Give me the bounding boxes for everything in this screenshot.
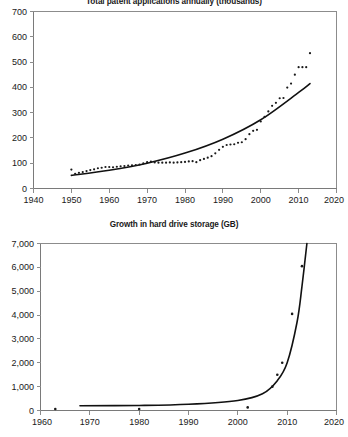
- y-tick-label: 300: [12, 108, 27, 118]
- x-axis-ticks: [41, 411, 337, 415]
- x-tick-label: 1990: [178, 417, 198, 427]
- data-point: [135, 164, 137, 166]
- data-point: [176, 161, 178, 163]
- data-point: [245, 138, 247, 140]
- data-point: [298, 66, 300, 68]
- data-point: [309, 52, 311, 54]
- data-point: [161, 162, 163, 164]
- y-tick-label: 100: [12, 158, 27, 168]
- x-tick-label: 2000: [251, 195, 271, 205]
- y-axis-ticks: [30, 12, 34, 189]
- y-tick-label: 6,000: [11, 262, 34, 272]
- y-tick-label: 1,000: [11, 382, 34, 392]
- data-point: [146, 161, 148, 163]
- x-tick-label: 1990: [213, 195, 233, 205]
- y-tick-label: 2,000: [11, 358, 34, 368]
- data-point: [70, 168, 72, 170]
- patent-applications-plot: 0 100 200 300 400 500 600 700: [0, 0, 348, 215]
- y-axis-labels: 0 100 200 300 400 500 600 700: [12, 7, 27, 194]
- y-tick-label: 3,000: [11, 334, 34, 344]
- data-point: [112, 166, 114, 168]
- data-point: [281, 361, 284, 364]
- data-point: [184, 161, 186, 163]
- data-point: [142, 162, 144, 164]
- data-point: [188, 160, 190, 162]
- x-tick-label: 1940: [23, 195, 43, 205]
- data-point: [218, 149, 220, 151]
- data-point: [275, 102, 277, 104]
- data-point: [97, 167, 99, 169]
- y-tick-label: 600: [12, 32, 27, 42]
- data-point: [131, 164, 133, 166]
- chart-patent-applications: Total patent applications annually (thou…: [0, 0, 348, 215]
- data-point: [54, 408, 57, 411]
- data-point: [267, 110, 269, 112]
- data-point: [241, 141, 243, 143]
- data-point: [305, 66, 307, 68]
- y-tick-label: 0: [29, 406, 34, 416]
- data-point: [301, 66, 303, 68]
- data-point: [157, 162, 159, 164]
- y-axis-labels: 0 1,000 2,000 3,000 4,000 5,000 6,000 7,…: [11, 239, 34, 416]
- scatter-points: [54, 265, 303, 411]
- data-point: [127, 164, 129, 166]
- data-point: [260, 120, 262, 122]
- data-point: [138, 163, 140, 165]
- x-tick-label: 1950: [61, 195, 81, 205]
- trend-line: [71, 84, 310, 176]
- y-tick-label: 400: [12, 82, 27, 92]
- x-tick-label: 2010: [277, 417, 297, 427]
- data-point: [203, 158, 205, 160]
- data-point: [154, 161, 156, 163]
- x-tick-label: 1970: [80, 417, 100, 427]
- data-point: [256, 129, 258, 131]
- data-point: [229, 143, 231, 145]
- trend-curve: [71, 84, 310, 176]
- y-axis-ticks: [37, 244, 41, 411]
- y-tick-label: 7,000: [11, 239, 34, 249]
- data-point: [233, 143, 235, 145]
- data-point: [82, 171, 84, 173]
- data-point: [93, 168, 95, 170]
- data-point: [252, 130, 254, 132]
- x-axis-labels: 1960 1970 1980 1990 2000 2010 2020: [32, 417, 344, 427]
- chart-hard-drive-storage: Growth in hard drive storage (GB): [0, 215, 348, 437]
- x-tick-label: 1960: [32, 417, 52, 427]
- data-point: [195, 161, 197, 163]
- x-tick-label: 1960: [99, 195, 119, 205]
- x-tick-label: 2020: [324, 417, 344, 427]
- data-point: [165, 162, 167, 164]
- data-point: [101, 167, 103, 169]
- x-tick-label: 2000: [228, 417, 248, 427]
- data-point: [138, 408, 141, 411]
- data-point: [294, 74, 296, 76]
- y-tick-label: 700: [12, 7, 27, 17]
- data-point: [301, 265, 304, 268]
- plot-frame: [41, 244, 337, 411]
- data-point: [286, 87, 288, 89]
- data-point: [207, 157, 209, 159]
- trend-curve: [80, 244, 307, 406]
- data-point: [214, 152, 216, 154]
- data-point: [104, 166, 106, 168]
- data-point: [123, 165, 125, 167]
- data-point: [108, 166, 110, 168]
- trend-line: [80, 244, 307, 406]
- data-point: [291, 313, 294, 316]
- y-tick-label: 5,000: [11, 286, 34, 296]
- data-point: [237, 142, 239, 144]
- data-point: [150, 161, 152, 163]
- x-tick-label: 2010: [289, 195, 309, 205]
- x-tick-label: 1980: [129, 417, 149, 427]
- data-point: [271, 385, 274, 388]
- data-point: [85, 170, 87, 172]
- data-point: [120, 165, 122, 167]
- hard-drive-storage-plot: 0 1,000 2,000 3,000 4,000 5,000 6,000 7,…: [0, 215, 348, 437]
- data-point: [89, 169, 91, 171]
- data-point: [282, 97, 284, 99]
- x-axis-labels: 1940 1950 1960 1970 1980 1990 2000 2010 …: [23, 195, 344, 205]
- data-point: [226, 144, 228, 146]
- data-point: [271, 105, 273, 107]
- y-tick-label: 200: [12, 133, 27, 143]
- y-tick-label: 500: [12, 57, 27, 67]
